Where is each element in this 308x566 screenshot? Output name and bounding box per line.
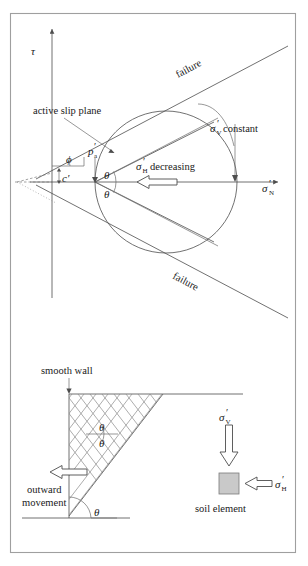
wedge-hatching xyxy=(0,394,282,550)
failure-envelope-lower xyxy=(36,185,288,318)
mohr-diagram-group: τ σ N ′ failure failure ϕ c′ active slip… xyxy=(15,29,288,318)
figure-canvas: τ σ N ′ failure failure ϕ c′ active slip… xyxy=(0,0,308,566)
svg-text:σ: σ xyxy=(210,122,216,134)
outward-movement-line1: outward xyxy=(27,484,62,495)
svg-text:′: ′ xyxy=(143,156,145,167)
svg-text:N: N xyxy=(269,189,274,197)
cprime-arrow-up xyxy=(57,168,61,172)
theta-wedge-lower: θ xyxy=(99,437,105,449)
active-slip-plane-label: active slip plane xyxy=(33,105,102,116)
envelope-extension-upper xyxy=(17,173,52,182)
failure-label-lower: failure xyxy=(171,270,201,293)
theta-base-arc xyxy=(69,497,91,518)
slip-line-to-failure-upper xyxy=(95,118,218,182)
theta-arc-lower xyxy=(114,182,117,193)
sigma-h-arrow xyxy=(245,477,272,490)
svg-text:H: H xyxy=(143,167,148,175)
theta-label-lower: θ xyxy=(104,188,110,200)
svg-text:σ: σ xyxy=(262,182,268,194)
svg-text:′: ′ xyxy=(226,407,228,418)
tau-axis-label: τ xyxy=(31,45,36,57)
svg-text:′: ′ xyxy=(282,474,284,485)
sigma-v-element-label: σ V ′ xyxy=(219,407,231,426)
phi-label: ϕ xyxy=(66,153,72,165)
theta-wedge-upper: θ xyxy=(99,421,105,433)
sigma-h-decreasing-arrow xyxy=(137,176,177,189)
slip-line-to-failure-lower xyxy=(95,182,218,246)
svg-text:σ: σ xyxy=(136,160,142,172)
sigma-h-decreasing-label: σ H ′ decreasing xyxy=(136,156,196,175)
svg-text:H: H xyxy=(282,485,287,493)
svg-text:σ: σ xyxy=(219,411,225,423)
theta-arc-upper xyxy=(114,172,117,183)
svg-text:constant: constant xyxy=(223,123,258,134)
failure-label-upper: failure xyxy=(174,57,204,80)
outward-movement-line2: movement xyxy=(22,497,66,508)
svg-text:′: ′ xyxy=(217,118,219,129)
svg-text:decreasing: decreasing xyxy=(150,161,196,172)
soil-element-box xyxy=(219,473,239,494)
theta-label-upper: θ xyxy=(104,169,110,181)
svg-text:′: ′ xyxy=(269,178,271,189)
smooth-wall-label: smooth wall xyxy=(41,365,93,376)
svg-text:σ: σ xyxy=(275,478,281,490)
cprime-label: c′ xyxy=(62,172,70,184)
sigma-v-constant-label: σ V ′ constant xyxy=(210,118,258,137)
outward-movement-arrow xyxy=(50,466,87,479)
smooth-wall-arrowhead xyxy=(66,389,71,394)
soil-element-label: soil element xyxy=(195,503,246,514)
svg-text:V: V xyxy=(226,418,231,426)
sigma-h-element-label: σ H ′ xyxy=(275,474,287,493)
svg-text:′: ′ xyxy=(94,141,96,152)
svg-text:a: a xyxy=(94,152,98,160)
svg-text:V: V xyxy=(217,129,222,137)
theta-base-label: θ xyxy=(94,506,100,518)
pa-label: p a ′ xyxy=(87,141,98,160)
figure-root: τ σ N ′ failure failure ϕ c′ active slip… xyxy=(0,0,308,566)
sigma-v-arrow xyxy=(220,425,238,466)
svg-text:p: p xyxy=(87,145,94,157)
wall-diagram-group: smooth wall outward movement θ θ θ σ V ′… xyxy=(0,365,287,550)
sigma-n-axis-label: σ N ′ xyxy=(262,178,274,197)
